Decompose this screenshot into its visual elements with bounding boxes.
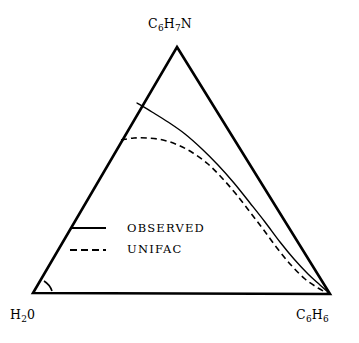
apex-formula-h: H bbox=[164, 16, 175, 31]
legend-label-observed: OBSERVED bbox=[127, 223, 205, 235]
right-formula-sub2: 6 bbox=[323, 314, 329, 324]
phase-diagram-canvas bbox=[0, 0, 359, 343]
vertex-label-bottom-right: C6H6 bbox=[296, 309, 329, 324]
ternary-phase-diagram-figure: C6H7N H20 C6H6 OBSERVED UNIFAC bbox=[0, 0, 359, 343]
apex-formula-n: N bbox=[181, 16, 192, 31]
left-formula-h: H bbox=[10, 307, 21, 322]
vertex-label-bottom-left: H20 bbox=[10, 309, 35, 324]
legend-label-unifac: UNIFAC bbox=[127, 244, 183, 256]
right-formula-c: C bbox=[296, 307, 306, 322]
right-formula-h: H bbox=[312, 307, 323, 322]
vertex-label-apex: C6H7N bbox=[148, 18, 192, 33]
apex-formula-c: C bbox=[148, 16, 158, 31]
left-formula-o: 0 bbox=[27, 307, 35, 322]
ternary-triangle-outline bbox=[33, 47, 330, 294]
